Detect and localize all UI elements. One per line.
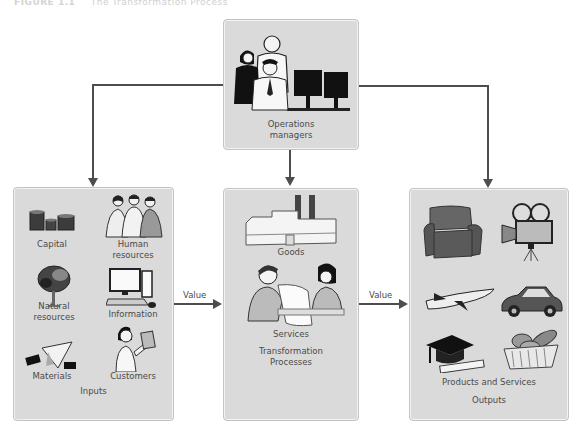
value-arrow-2	[357, 303, 400, 305]
input-label-materials: Materials	[22, 371, 82, 382]
connector-top-right-vertical	[487, 85, 489, 180]
connector-top-left-vertical	[92, 84, 94, 179]
input-label-human-resources-line2: resources	[100, 250, 166, 261]
inputs-box: Capital Human resources Natural resource…	[13, 187, 174, 421]
transformation-footer-line1: Transformation	[224, 346, 358, 357]
connector-top-left-horizontal	[92, 84, 224, 86]
outputs-box: Products and Services Outputs	[409, 188, 569, 421]
transformation-footer-line2: Processes	[224, 357, 358, 368]
outputs-footer-label: Outputs	[410, 395, 568, 406]
movie-camera-icon	[498, 201, 558, 263]
services-label: Services	[224, 329, 358, 340]
input-label-capital: Capital	[24, 239, 80, 250]
car-icon	[500, 285, 564, 319]
input-label-customers: Customers	[102, 371, 164, 382]
woman-holding-box-icon	[112, 324, 158, 372]
value-label-process-to-outputs: Value	[369, 290, 392, 301]
figure-caption: FIGURE 1.1 The Transformation Process	[14, 0, 228, 7]
armchair-icon	[422, 204, 484, 260]
figure-title: The Transformation Process	[91, 0, 228, 7]
arrowhead-to-outputs	[483, 179, 493, 188]
value-label-inputs-to-process: Value	[183, 290, 206, 301]
input-label-information: Information	[100, 309, 166, 320]
arrowhead-to-inputs	[88, 178, 98, 187]
value-arrow-1	[172, 303, 214, 305]
goods-label: Goods	[224, 247, 358, 258]
group-of-people-icon	[100, 193, 166, 239]
arrowhead-value-1	[213, 299, 222, 309]
building-materials-icon	[24, 338, 84, 374]
products-and-services-label: Products and Services	[410, 377, 568, 388]
input-label-human-resources-line1: Human	[100, 239, 166, 250]
input-label-natural-resources-line2: resources	[24, 312, 84, 323]
arrowhead-to-process	[285, 177, 295, 186]
desktop-computer-icon	[106, 267, 160, 309]
coin-stacks-icon	[28, 210, 76, 232]
transformation-processes-box: Goods Services Transformation Processes	[223, 188, 359, 421]
airplane-icon	[424, 283, 496, 313]
operations-managers-label-line2: managers	[224, 130, 358, 141]
service-desk-people-icon	[238, 261, 348, 327]
inputs-footer-label: Inputs	[14, 386, 173, 397]
graduation-cap-diploma-icon	[424, 333, 488, 373]
connector-top-center-vertical	[289, 148, 291, 178]
input-label-natural-resources-line1: Natural	[24, 301, 84, 312]
bread-basket-icon	[500, 325, 562, 371]
arrowhead-value-2	[399, 299, 408, 309]
operations-managers-illustration-icon	[232, 34, 352, 114]
operations-managers-box: Operations managers	[223, 19, 359, 150]
connector-top-right-horizontal	[357, 85, 489, 87]
figure-number: FIGURE 1.1	[14, 0, 75, 7]
factory-icon	[242, 195, 342, 251]
operations-managers-label-line1: Operations	[224, 119, 358, 130]
